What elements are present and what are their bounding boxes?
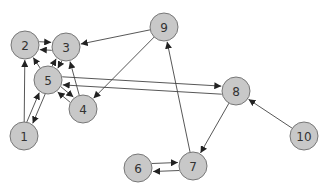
edge-7-to-6 bbox=[153, 171, 179, 172]
edge-7-to-9 bbox=[167, 42, 190, 153]
node-10: 10 bbox=[290, 122, 318, 150]
node-label: 2 bbox=[21, 39, 29, 53]
node-1: 1 bbox=[10, 122, 38, 150]
node-label: 1 bbox=[20, 130, 28, 144]
edge-6-to-7 bbox=[152, 163, 178, 164]
node-label: 8 bbox=[232, 85, 240, 99]
edge-3-to-5 bbox=[58, 61, 62, 69]
node-7: 7 bbox=[179, 152, 207, 180]
node-9: 9 bbox=[150, 13, 178, 41]
node-label: 10 bbox=[296, 130, 311, 144]
nodes-layer: 12345678910 bbox=[10, 13, 318, 182]
edge-10-to-8 bbox=[249, 99, 293, 128]
node-2: 2 bbox=[11, 31, 39, 59]
node-5: 5 bbox=[34, 66, 62, 94]
node-6: 6 bbox=[124, 154, 152, 182]
edge-5-to-3 bbox=[52, 59, 56, 67]
edge-1-to-5 bbox=[27, 93, 40, 122]
edge-4-to-3 bbox=[70, 62, 79, 96]
node-3: 3 bbox=[52, 33, 80, 61]
edge-5-to-1 bbox=[33, 94, 46, 123]
node-label: 5 bbox=[44, 74, 52, 88]
edge-8-to-5 bbox=[63, 85, 222, 94]
directed-graph: 12345678910 bbox=[0, 0, 326, 193]
node-label: 3 bbox=[62, 41, 70, 55]
edge-9-to-4 bbox=[94, 37, 155, 98]
edge-3-to-2 bbox=[40, 50, 52, 51]
edge-5-to-2 bbox=[33, 58, 40, 69]
node-4: 4 bbox=[69, 95, 97, 123]
edge-1-to-2 bbox=[24, 60, 25, 122]
node-label: 4 bbox=[79, 103, 87, 117]
edge-5-to-8 bbox=[62, 77, 221, 86]
edge-8-to-7 bbox=[201, 103, 230, 153]
node-8: 8 bbox=[222, 77, 250, 105]
node-label: 6 bbox=[134, 162, 142, 176]
edge-2-to-3 bbox=[39, 42, 51, 43]
node-label: 9 bbox=[160, 21, 168, 35]
edge-9-to-3 bbox=[81, 30, 151, 44]
node-label: 7 bbox=[189, 160, 197, 174]
